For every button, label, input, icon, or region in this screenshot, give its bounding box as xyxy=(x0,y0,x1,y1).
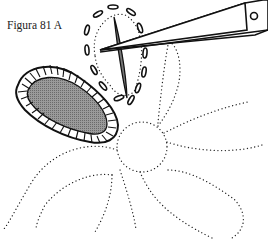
needle-icon xyxy=(114,17,127,98)
scissors-icon xyxy=(100,0,268,52)
needlework-illustration xyxy=(0,0,268,247)
figure: Figura 81 A xyxy=(0,0,268,247)
